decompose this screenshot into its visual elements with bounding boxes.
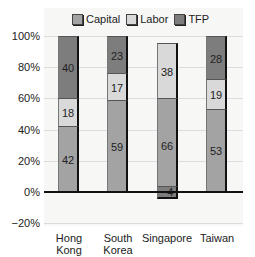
value-label: 42 <box>62 154 74 166</box>
segment-labor: 18 <box>58 98 79 127</box>
xlabel-line: Korea <box>88 244 148 256</box>
bar-taiwan: 28 19 53 <box>206 0 228 257</box>
ytick-label: 60% <box>0 92 40 104</box>
segment-capital: 66 <box>157 98 178 192</box>
ytick-label: 100% <box>0 30 40 42</box>
value-label: 19 <box>210 89 222 101</box>
segment-tfp: 23 <box>107 36 128 74</box>
xlabel-taiwan: Taiwan <box>187 232 247 244</box>
ytick-label: 40% <box>0 124 40 136</box>
value-label: 28 <box>210 53 222 65</box>
ytick-label: −20% <box>0 217 40 229</box>
segment-capital: 53 <box>206 109 227 192</box>
ytick-label: 0% <box>0 186 40 198</box>
bar-hong-kong: 40 18 42 <box>58 0 80 257</box>
bar-south-korea: 23 17 59 <box>107 0 129 257</box>
legend-item-tfp: TFP <box>174 13 209 25</box>
bar-singapore: 38 66 −4 <box>157 0 179 257</box>
xlabel-line: Taiwan <box>187 232 247 244</box>
segment-labor: 19 <box>206 79 227 110</box>
segment-capital: 42 <box>58 126 79 192</box>
value-label: 17 <box>111 82 123 94</box>
value-label: 59 <box>111 141 123 153</box>
value-label: 53 <box>210 145 222 157</box>
segment-capital: 59 <box>107 100 128 192</box>
segment-labor: 38 <box>157 43 178 99</box>
legend: Capital Labor TFP <box>72 12 215 26</box>
ytick-label: 80% <box>0 61 40 73</box>
segment-tfp: 40 <box>58 36 79 99</box>
value-label: 66 <box>161 140 173 152</box>
segment-tfp: 28 <box>206 36 227 80</box>
value-label: 23 <box>111 50 123 62</box>
segment-labor: 17 <box>107 73 128 101</box>
value-label: 40 <box>62 62 74 74</box>
ytick-label: 20% <box>0 155 40 167</box>
zero-axis-line <box>44 191 243 193</box>
value-label: 38 <box>161 66 173 78</box>
value-label: 18 <box>62 107 74 119</box>
